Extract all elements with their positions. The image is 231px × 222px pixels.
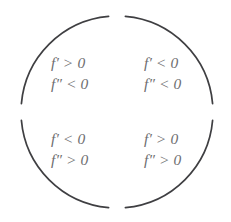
quadrant-label-bottom-left: f′ < 0 f″ > 0 [51, 131, 88, 167]
first-derivative-condition: f′ < 0 [51, 131, 85, 147]
second-derivative-condition: f″ > 0 [144, 152, 181, 168]
quadrant-label-top-right: f′ < 0 f″ < 0 [144, 55, 181, 91]
quadrant-label-bottom-right: f′ > 0 f″ > 0 [144, 131, 181, 167]
second-derivative-condition: f″ > 0 [51, 152, 88, 168]
first-derivative-condition: f′ < 0 [144, 55, 178, 71]
concavity-diagram: f′ > 0 f″ < 0 f′ < 0 f″ < 0 f′ < 0 f″ > … [0, 0, 231, 222]
second-derivative-condition: f″ < 0 [144, 76, 181, 92]
quadrant-label-top-left: f′ > 0 f″ < 0 [51, 55, 88, 91]
first-derivative-condition: f′ > 0 [51, 55, 85, 71]
first-derivative-condition: f′ > 0 [144, 131, 178, 147]
second-derivative-condition: f″ < 0 [51, 76, 88, 92]
circle-arcs-graphic [0, 0, 231, 222]
